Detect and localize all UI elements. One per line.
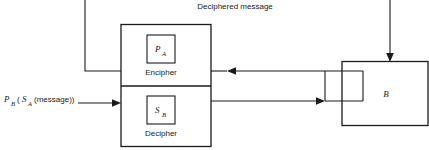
input-message-arrowhead [112,99,121,106]
b-left-connector-stub-outline [325,71,363,101]
input-inner-key-subscript: A [27,100,32,107]
decipher-to-b-arrow [211,97,325,104]
into-b-top-arrowhead [386,53,394,62]
input-inner-key-letter: S [22,94,27,104]
input-inner-text: (message)) [34,95,75,104]
diagram-canvas: Deciphered message B [0,0,429,150]
deciphered-message-polyline [85,0,121,71]
from-b-to-encipher-arrowhead [227,67,236,74]
decipher-caption: Decipher [145,129,177,138]
decipher-key-box [147,96,175,124]
input-outer-key-subscript: B [11,100,15,107]
b-left-connector-stub [325,71,363,101]
deciphered-message-label: Deciphered message [197,2,273,11]
input-open-paren: ( [17,95,20,104]
deciphered-message-path [85,0,121,71]
input-message-arrow [78,99,121,106]
cryptography-block-diagram: Deciphered message B [0,0,429,150]
input-outer-key-letter: P [3,94,10,104]
into-b-top-arrow [386,0,394,62]
decipher-key-letter: S [155,105,160,115]
encipher-key-subscript: A [161,50,166,57]
encipher-caption: Encipher [145,68,177,77]
encipher-key-box [147,35,175,63]
encipher-block: P A Encipher [145,35,177,77]
receiver-box-b-label: B [383,89,389,99]
encipher-key-letter: P [154,44,161,54]
from-b-to-encipher-arrow [211,67,325,74]
decipher-to-b-arrowhead [316,97,325,104]
decipher-key-subscript: B [162,111,166,118]
decipher-block: S B Decipher [145,96,177,138]
input-message-label: P B ( S A (message)) [3,94,75,107]
